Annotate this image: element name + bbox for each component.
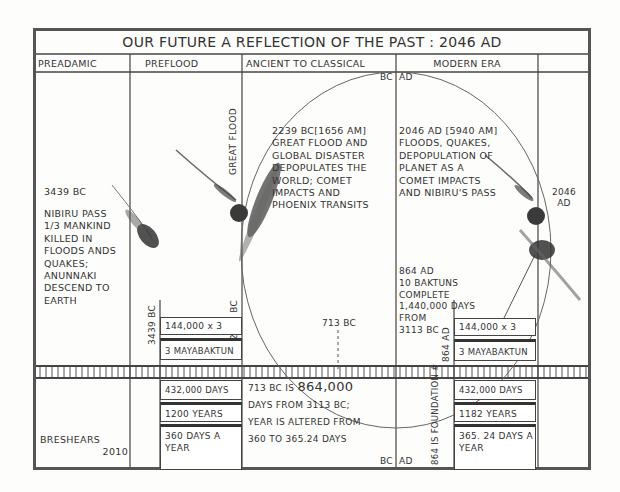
note-line: PLANET AS A <box>399 162 529 174</box>
note-3439-year: 3439 BC <box>44 186 86 198</box>
box-left-yearlen: 360 DAYS A YEAR <box>160 424 242 470</box>
note-line: DESCEND TO <box>44 282 132 294</box>
marker-bc-bottom: BC <box>380 456 393 467</box>
signature: BRESHEARS 2010 <box>40 434 128 458</box>
box-right-days: 432,000 DAYS <box>454 380 536 400</box>
note-line: WORLD; COMET <box>272 175 396 187</box>
box-right-yearlen: 365. 24 DAYS A YEAR <box>454 424 536 470</box>
box-left-144000: 144,000 x 3 <box>160 317 242 335</box>
marker-ad-bottom: AD <box>399 456 413 467</box>
box-left-years: 1200 YEARS <box>160 402 242 422</box>
note-713-prefix: 713 BC IS <box>248 383 294 393</box>
note-line: COMET IMPACTS <box>399 175 529 187</box>
note-line: QUAKES; <box>44 258 132 270</box>
label-great-flood: GREAT FLOOD <box>228 108 238 175</box>
header-preadamic: PREADAMIC <box>38 56 128 72</box>
header-preflood: PREFLOOD <box>145 56 241 72</box>
header-ancient: ANCIENT TO CLASSICAL <box>246 56 394 72</box>
note-713-number: 864,000 <box>297 379 353 394</box>
note-line: AND NIBIRU'S PASS <box>399 187 529 199</box>
note-line: DAYS FROM 3113 BC; <box>248 397 394 414</box>
note-ancient: 2239 BC[1656 AM] GREAT FLOOD AND GLOBAL … <box>272 125 396 212</box>
note-line: 10 BAKTUNS <box>399 278 509 290</box>
marker-ad-top: AD <box>399 72 413 83</box>
box-left-baktun: 3 MAYABAKTUN <box>160 338 242 360</box>
label-713-bc: 713 BC <box>322 318 356 329</box>
note-line: 1,440,000 DAYS <box>399 301 509 313</box>
box-right-144000: 144,000 x 3 <box>454 318 536 336</box>
page-title: OUR FUTURE A REFLECTION OF THE PAST : 20… <box>36 30 588 54</box>
note-line: ANUNNAKI <box>44 270 132 282</box>
label-3439-bc: 3439 BC <box>147 305 157 345</box>
box-right-years: 1182 YEARS <box>454 402 536 422</box>
note-line: 1/3 MANKIND <box>44 220 132 232</box>
box-right-baktun: 3 MAYABAKTUN <box>454 339 536 361</box>
note-line: DEPOPULATION OF <box>399 150 529 162</box>
signature-name: BRESHEARS <box>40 434 128 446</box>
note-713-line1: 713 BC IS 864,000 <box>248 378 394 397</box>
box-left-days: 432,000 DAYS <box>160 380 242 400</box>
note-713: 713 BC IS 864,000 DAYS FROM 3113 BC; YEA… <box>248 378 394 448</box>
label-2046-ad: 2046 AD <box>545 187 583 209</box>
marker-bc-top: BC <box>380 72 393 83</box>
note-line: 2046 AD [5940 AM] <box>399 125 529 137</box>
note-line: 360 TO 365.24 DAYS <box>248 431 394 448</box>
note-line: 864 AD <box>399 266 509 278</box>
note-line: FLOODS ANDS <box>44 245 132 257</box>
note-line: GLOBAL DISASTER <box>272 150 396 162</box>
note-line: YEAR IS ALTERED FROM <box>248 414 394 431</box>
note-line: EARTH <box>44 295 132 307</box>
label-foundation: 864 IS FOUNDATION # <box>430 363 440 465</box>
note-line: PHOENIX TRANSITS <box>272 199 396 211</box>
note-modern: 2046 AD [5940 AM] FLOODS, QUAKES, DEPOPU… <box>399 125 529 199</box>
signature-year: 2010 <box>40 446 128 458</box>
note-line: NIBIRU PASS <box>44 208 132 220</box>
note-line: IMPACTS AND <box>272 187 396 199</box>
note-line: GREAT FLOOD AND <box>272 137 396 149</box>
note-line: FLOODS, QUAKES, <box>399 137 529 149</box>
note-line: 2239 BC[1656 AM] <box>272 125 396 137</box>
header-modern: MODERN ERA <box>396 56 538 72</box>
note-line: COMPLETE <box>399 290 509 302</box>
note-preadamic: NIBIRU PASS 1/3 MANKIND KILLED IN FLOODS… <box>44 208 132 307</box>
note-line: KILLED IN <box>44 233 132 245</box>
note-line: DEPOPULATES THE <box>272 162 396 174</box>
